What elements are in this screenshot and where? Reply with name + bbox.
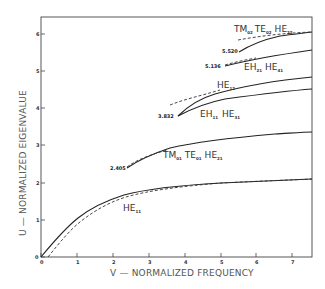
label-eh11-he31: EH11HE31 [200, 109, 240, 120]
eigenvalue-chart: 0 1 2 3 4 5 6 7 0 1 2 3 4 5 6 V — NORMAL… [0, 0, 325, 289]
cutoff-5136: 5.136 [205, 63, 221, 69]
y-tick-1: 1 [36, 217, 40, 223]
x-tick-2: 2 [112, 259, 116, 265]
curve-he11-approx [48, 179, 312, 257]
label-tm02-te02-he22: TM02TE02HE22 [233, 24, 293, 35]
cutoff-5520: 5.520 [222, 48, 238, 54]
y-tick-3: 3 [36, 142, 40, 148]
y-tick-4: 4 [36, 105, 40, 111]
y-axis-title: U — NORMALIZED EIGENVALUE [18, 90, 28, 236]
curve-he11 [41, 179, 312, 257]
plot-frame [41, 17, 312, 257]
label-he11: HE11 [123, 203, 141, 214]
x-tick-0: 0 [40, 259, 44, 265]
x-tick-1: 1 [76, 259, 80, 265]
curve-eh11 [178, 89, 312, 116]
label-eh21-he41: EH21HE41 [244, 62, 283, 73]
y-tick-0: 0 [35, 254, 39, 260]
y-tick-2: 2 [36, 180, 40, 186]
x-axis-title: V — NORMALIZED FREQUENCY [110, 268, 254, 278]
y-axis: 0 1 2 3 4 5 6 [35, 31, 45, 260]
label-he12: HE12 [217, 80, 235, 91]
x-tick-6: 6 [255, 259, 259, 265]
label-tm01-te01-he21: TM01TE01HE21 [162, 150, 223, 161]
x-tick-3: 3 [148, 259, 152, 265]
mode-labels: HE11 TM01TE01HE21 EH11HE31 HE12 EH21HE41… [123, 24, 293, 214]
y-tick-5: 5 [36, 68, 40, 74]
curve-tm01 [127, 132, 312, 168]
x-tick-5: 5 [220, 259, 224, 265]
y-tick-6: 6 [36, 31, 40, 37]
cutoff-2405: 2.405 [110, 165, 126, 171]
x-axis: 0 1 2 3 4 5 6 7 [40, 253, 295, 265]
x-tick-4: 4 [184, 259, 188, 265]
x-tick-7: 7 [291, 259, 295, 265]
cutoff-3832: 3.832 [158, 113, 174, 119]
